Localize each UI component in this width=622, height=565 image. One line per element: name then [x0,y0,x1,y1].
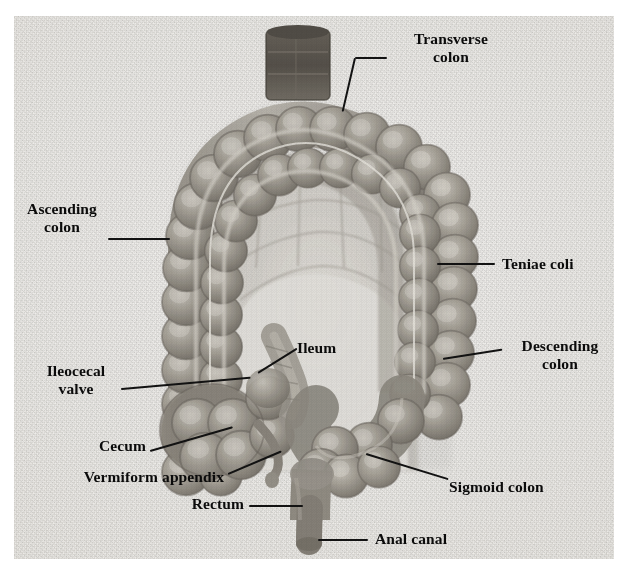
label-ascending-colon-line2: colon [16,218,108,236]
label-ileocecal-valve-line2: valve [32,380,120,398]
label-cecum-line1: Cecum [58,437,146,455]
label-descending-colon: Descending colon [508,337,612,372]
label-anal-canal-line1: Anal canal [375,530,447,548]
label-ileum: Ileum [297,339,336,357]
label-anal-canal: Anal canal [375,530,447,548]
label-ascending-colon: Ascending colon [16,200,108,235]
label-sigmoid-colon-line1: Sigmoid colon [449,478,544,496]
label-descending-colon-line1: Descending [508,337,612,355]
label-teniae-coli: Teniae coli [502,255,574,273]
leader-anal-canal [318,539,368,541]
label-transverse-colon-line1: Transverse [388,30,514,48]
label-vermiform-appendix-line1: Vermiform appendix [58,468,224,486]
leader-rectum [249,505,303,507]
label-descending-colon-line2: colon [508,355,612,373]
label-teniae-coli-line1: Teniae coli [502,255,574,273]
transverse-colon-cut-stump [266,25,330,100]
label-ileocecal-valve-line1: Ileocecal [32,362,120,380]
leader-ascending-colon [108,238,170,240]
label-ileocecal-valve: Ileocecal valve [32,362,120,397]
label-cecum: Cecum [58,437,146,455]
anatomy-figure: Transverse colon Ascending colon Teniae … [0,0,622,565]
leader-teniae-coli [437,263,495,265]
label-rectum-line1: Rectum [160,495,244,513]
label-vermiform-appendix: Vermiform appendix [58,468,224,486]
label-ascending-colon-line1: Ascending [16,200,108,218]
leader-transverse-colon-horizontal [355,57,387,59]
label-ileum-line1: Ileum [297,339,336,357]
label-transverse-colon: Transverse colon [388,30,514,65]
label-rectum: Rectum [160,495,244,513]
label-sigmoid-colon: Sigmoid colon [449,478,544,496]
label-transverse-colon-line2: colon [388,48,514,66]
